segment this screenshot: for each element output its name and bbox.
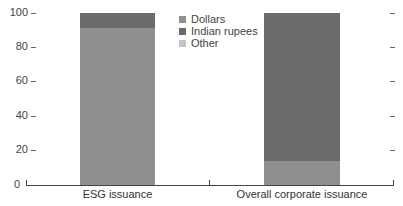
- legend-label: Dollars: [191, 13, 225, 25]
- y-tick-mark-right: [390, 116, 395, 117]
- bar-overall-indian-rupees: [264, 13, 340, 161]
- y-tick-mark: [31, 47, 36, 48]
- legend-label: Indian rupees: [191, 25, 258, 37]
- legend-swatch: [179, 16, 186, 23]
- x-axis-tick: [393, 180, 394, 185]
- x-axis-tick: [209, 180, 210, 185]
- y-tick-mark-right: [390, 81, 395, 82]
- y-tick-label: 100: [0, 6, 28, 18]
- x-axis-tick: [26, 180, 27, 185]
- bar-overall-dollars: [264, 161, 340, 185]
- y-tick-mark-right: [390, 150, 395, 151]
- x-label-esg: ESG issuance: [60, 188, 175, 200]
- legend-swatch: [179, 28, 186, 35]
- bar-esg-dollars: [80, 28, 155, 185]
- y-tick-label: 20: [0, 143, 28, 155]
- y-tick-mark: [31, 116, 36, 117]
- y-tick-mark: [31, 13, 36, 14]
- legend-item-dollars: Dollars: [179, 13, 225, 25]
- y-tick-label: 60: [0, 74, 28, 86]
- x-label-overall: Overall corporate issuance: [232, 188, 372, 200]
- legend-item-other: Other: [179, 37, 219, 49]
- x-axis-line: [26, 185, 394, 186]
- y-tick-label: 40: [0, 109, 28, 121]
- y-tick-label: 0: [0, 178, 20, 190]
- y-tick-mark-right: [390, 47, 395, 48]
- bar-esg-indian-rupees: [80, 13, 155, 28]
- y-tick-mark: [31, 81, 36, 82]
- legend-label: Other: [191, 37, 219, 49]
- y-tick-mark: [31, 150, 36, 151]
- legend-swatch: [179, 40, 186, 47]
- y-tick-mark-right: [390, 13, 395, 14]
- legend-item-indian-rupees: Indian rupees: [179, 25, 258, 37]
- y-tick-label: 80: [0, 40, 28, 52]
